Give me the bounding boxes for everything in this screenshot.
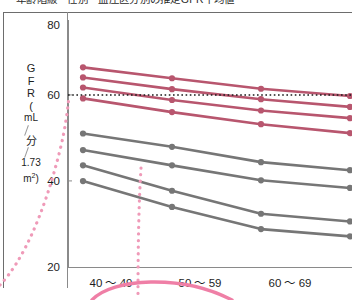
- series-marker-gray-1-2: [258, 159, 264, 165]
- series-marker-gray-3-1: [169, 188, 175, 194]
- series-marker-gray-2-1: [169, 162, 175, 168]
- chart-screenshot: 年齢階級・性別・血圧区分別の推定GFR平均値 G F R ( mL 分 1.73…: [0, 0, 352, 300]
- series-marker-gray-4-3: [347, 233, 352, 239]
- series-marker-red-4-3: [347, 130, 352, 136]
- series-marker-red-2-0: [80, 74, 86, 80]
- series-marker-gray-3-3: [347, 218, 352, 224]
- series-marker-gray-2-3: [347, 185, 352, 191]
- series-marker-red-2-1: [169, 86, 175, 92]
- pink-dotted-falling-curve: [138, 168, 141, 296]
- series-marker-gray-1-3: [347, 167, 352, 173]
- series-marker-gray-3-0: [80, 162, 86, 168]
- series-marker-red-3-0: [80, 84, 86, 90]
- series-marker-gray-4-1: [169, 204, 175, 210]
- series-marker-red-4-1: [169, 109, 175, 115]
- series-marker-red-3-3: [347, 115, 352, 121]
- series-marker-gray-4-2: [258, 226, 264, 232]
- series-marker-red-2-3: [347, 104, 352, 110]
- series-marker-gray-1-0: [80, 130, 86, 136]
- series-marker-red-3-1: [169, 97, 175, 103]
- series-marker-red-4-2: [258, 121, 264, 127]
- series-marker-red-4-0: [80, 95, 86, 101]
- series-marker-red-3-2: [258, 107, 264, 113]
- pink-dotted-rising-curve: [0, 96, 69, 285]
- series-marker-gray-2-0: [80, 147, 86, 153]
- data-series-group: [80, 64, 352, 239]
- series-marker-red-1-0: [80, 64, 86, 70]
- series-line-gray-1: [83, 133, 350, 170]
- series-line-gray-4: [83, 181, 350, 236]
- series-marker-red-1-3: [347, 93, 352, 99]
- pink-arc-underline: [92, 282, 232, 300]
- series-marker-gray-4-0: [80, 178, 86, 184]
- series-marker-red-2-2: [258, 96, 264, 102]
- series-marker-gray-3-2: [258, 211, 264, 217]
- chart-plot-layer: [0, 0, 352, 300]
- series-marker-gray-1-1: [169, 144, 175, 150]
- series-marker-red-1-1: [169, 75, 175, 81]
- series-marker-red-1-2: [258, 86, 264, 92]
- series-marker-gray-2-2: [258, 177, 264, 183]
